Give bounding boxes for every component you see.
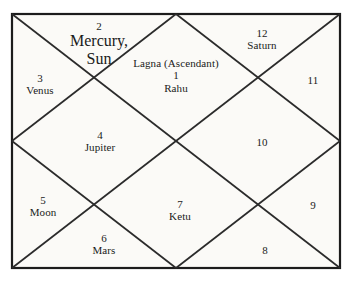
house-5-planets: Moon <box>30 206 57 218</box>
house-7-number: 7 <box>169 198 191 210</box>
house-6-number: 6 <box>92 232 115 244</box>
house-1-title: Lagna (Ascendant) <box>133 57 219 69</box>
house-6[interactable]: 6 Mars <box>92 232 115 257</box>
house-label-layer: Lagna (Ascendant) 1 Rahu 2 Mercury, Sun … <box>0 0 352 281</box>
house-7-planets: Ketu <box>169 210 191 222</box>
house-5[interactable]: 5 Moon <box>30 194 57 219</box>
house-11-number: 11 <box>308 74 319 86</box>
birth-chart: Lagna (Ascendant) 1 Rahu 2 Mercury, Sun … <box>0 0 352 281</box>
house-11[interactable]: 11 <box>308 74 319 86</box>
house-3[interactable]: 3 Venus <box>26 72 53 97</box>
house-8[interactable]: 8 <box>262 244 268 256</box>
house-10[interactable]: 10 <box>256 136 267 148</box>
house-6-planets: Mars <box>92 244 115 256</box>
house-9-number: 9 <box>310 199 316 211</box>
house-5-number: 5 <box>30 194 57 206</box>
house-12-number: 12 <box>247 27 276 39</box>
house-2-planet-1: Mercury, <box>70 32 128 50</box>
house-4[interactable]: 4 Jupiter <box>85 129 116 154</box>
house-2-number: 2 <box>70 20 128 32</box>
house-4-number: 4 <box>85 129 116 141</box>
house-7[interactable]: 7 Ketu <box>169 198 191 223</box>
house-3-planets: Venus <box>26 84 53 96</box>
house-12[interactable]: 12 Saturn <box>247 27 276 52</box>
house-1-planets: Rahu <box>133 81 219 93</box>
house-2[interactable]: 2 Mercury, Sun <box>70 20 128 68</box>
house-10-number: 10 <box>256 136 267 148</box>
house-9[interactable]: 9 <box>310 199 316 211</box>
house-12-planets: Saturn <box>247 39 276 51</box>
house-3-number: 3 <box>26 72 53 84</box>
house-1-number: 1 <box>133 69 219 81</box>
house-8-number: 8 <box>262 244 268 256</box>
house-4-planets: Jupiter <box>85 141 116 153</box>
house-1[interactable]: Lagna (Ascendant) 1 Rahu <box>133 57 219 94</box>
house-2-planet-2: Sun <box>70 50 128 68</box>
